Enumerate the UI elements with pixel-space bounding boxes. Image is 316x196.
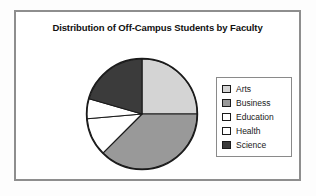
legend-swatch-icon [222, 113, 231, 121]
legend-item-label: Health [236, 126, 261, 136]
pie-svg [84, 56, 200, 172]
legend-item[interactable]: Business [222, 96, 287, 110]
legend-swatch-icon [222, 99, 231, 107]
chart-legend: ArtsBusinessEducationHealthScience [216, 77, 292, 157]
legend-swatch-icon [222, 141, 231, 149]
legend-item-label: Business [236, 98, 271, 108]
pie-chart [84, 56, 200, 172]
page-title: Distribution of Off-Campus Students by F… [16, 22, 299, 33]
pie-slice-arts [142, 59, 197, 114]
legend-item[interactable]: Education [222, 110, 287, 124]
legend-item[interactable]: Arts [222, 82, 287, 96]
legend-item-label: Science [236, 140, 266, 150]
legend-item-label: Education [236, 112, 274, 122]
chart-screenshot: Distribution of Off-Campus Students by F… [0, 0, 316, 196]
legend-item[interactable]: Health [222, 124, 287, 138]
pie-slices [87, 59, 197, 169]
legend-item-label: Arts [236, 84, 251, 94]
chart-frame: Distribution of Off-Campus Students by F… [14, 10, 301, 181]
legend-swatch-icon [222, 85, 231, 93]
legend-item[interactable]: Science [222, 138, 287, 152]
legend-swatch-icon [222, 127, 231, 135]
